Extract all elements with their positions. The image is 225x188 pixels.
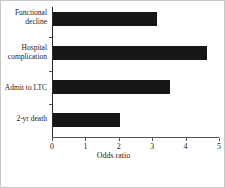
plot-area: 012345 <box>52 7 219 137</box>
x-axis-tick <box>152 138 153 141</box>
bar-functional-decline <box>53 12 157 26</box>
x-axis-tick <box>52 138 53 141</box>
y-axis-tick <box>49 104 52 105</box>
category-label-line: complication <box>1 53 47 62</box>
x-axis-title: Odds ratio <box>1 151 225 161</box>
x-axis-tick <box>85 138 86 141</box>
category-label-admit-to-ltc: Admit to LTC <box>1 84 47 93</box>
x-axis-tick <box>219 138 220 141</box>
category-label-line: 2-yr death <box>1 115 47 124</box>
category-label-line: Admit to LTC <box>1 84 47 93</box>
bar-2yr-death <box>53 113 120 127</box>
category-label-line: decline <box>1 18 47 27</box>
odds-ratio-bar-chart: Functional decline Hospital complication… <box>0 0 225 188</box>
x-axis-tick <box>186 138 187 141</box>
y-axis-tick <box>49 37 52 38</box>
y-axis-tick <box>49 71 52 72</box>
category-label-2yr-death: 2-yr death <box>1 115 47 124</box>
x-axis-tick <box>119 138 120 141</box>
x-axis-line <box>52 137 219 138</box>
category-label-hospital-complication: Hospital complication <box>1 44 47 61</box>
bar-admit-to-ltc <box>53 80 170 94</box>
category-label-functional-decline: Functional decline <box>1 9 47 26</box>
bar-hospital-complication <box>53 46 207 60</box>
